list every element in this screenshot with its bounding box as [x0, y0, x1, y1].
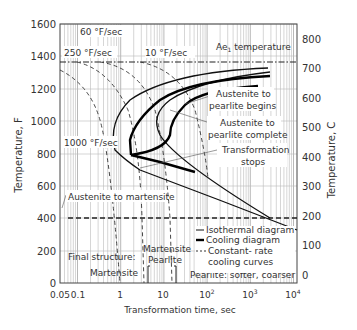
- svg-text:stops: stops: [241, 157, 265, 167]
- svg-text:pearlite complete: pearlite complete: [208, 130, 288, 140]
- y-axis-left: 1600 1400 1200 1000 800 600 400 200 0: [31, 19, 56, 289]
- label-60: 60 °F/sec: [80, 27, 122, 37]
- label-10: 10 °F/sec: [145, 48, 187, 58]
- svg-text:Transformation: Transformation: [221, 145, 290, 155]
- svg-text:Martensite: Martensite: [143, 244, 191, 254]
- svg-text:Constant- rate: Constant- rate: [208, 246, 273, 256]
- svg-text:104: 104: [285, 288, 300, 300]
- svg-text:400: 400: [302, 152, 321, 163]
- legend: Isothermal diagram Cooling diagram Const…: [195, 225, 295, 273]
- svg-text:700: 700: [302, 63, 321, 74]
- svg-text:Austenite to: Austenite to: [216, 89, 271, 99]
- svg-text:1400: 1400: [31, 51, 56, 62]
- svg-text:Final structure:: Final structure:: [68, 252, 135, 262]
- svg-text:cooling curves: cooling curves: [208, 257, 273, 267]
- svg-text:600: 600: [37, 181, 56, 192]
- svg-text:Pearlite: Pearlite: [148, 255, 182, 265]
- svg-text:pearlite begins: pearlite begins: [209, 101, 277, 111]
- svg-text:1: 1: [117, 290, 123, 300]
- svg-text:400: 400: [37, 213, 56, 224]
- label-ae1: Ae1 temperature: [216, 42, 291, 53]
- svg-text:500: 500: [302, 122, 321, 133]
- x-axis: 0.05 0.1 1 10 102 103 104: [50, 288, 301, 300]
- label-martensite-line: Austenite to martensite: [68, 192, 175, 202]
- svg-text:0.05: 0.05: [50, 290, 70, 300]
- label-1000: 1000 °F/sec: [64, 138, 118, 148]
- svg-text:1000: 1000: [31, 116, 56, 127]
- svg-text:800: 800: [37, 149, 56, 160]
- svg-text:800: 800: [302, 34, 321, 45]
- svg-text:100: 100: [302, 240, 321, 251]
- svg-text:10: 10: [157, 290, 169, 300]
- svg-text:102: 102: [199, 288, 214, 300]
- svg-text:Martensite: Martensite: [90, 268, 138, 278]
- svg-text:1600: 1600: [31, 19, 56, 30]
- y-axis-right: 800 700 600 500 400 300 200 100 0: [302, 34, 321, 281]
- svg-text:Isothermal diagram: Isothermal diagram: [206, 225, 294, 235]
- y-axis-label-left: Temperature, F: [13, 117, 24, 194]
- svg-text:600: 600: [302, 93, 321, 104]
- svg-text:0.1: 0.1: [71, 290, 85, 300]
- svg-text:103: 103: [242, 288, 257, 300]
- y-axis-label-right: Temperature, C: [326, 122, 337, 200]
- svg-text:1200: 1200: [31, 84, 56, 95]
- svg-text:200: 200: [37, 246, 56, 257]
- cct-diagram: 1600 1400 1200 1000 800 600 400 200 0 80…: [0, 0, 357, 330]
- svg-text:0: 0: [50, 278, 56, 289]
- svg-text:0: 0: [302, 270, 308, 281]
- svg-text:300: 300: [302, 181, 321, 192]
- svg-text:Austenite to: Austenite to: [220, 118, 275, 128]
- x-axis-label: Transformation time, sec: [123, 305, 236, 315]
- label-250: 250 °F/sec: [64, 48, 112, 58]
- svg-text:200: 200: [302, 211, 321, 222]
- svg-text:Cooling diagram: Cooling diagram: [206, 235, 280, 245]
